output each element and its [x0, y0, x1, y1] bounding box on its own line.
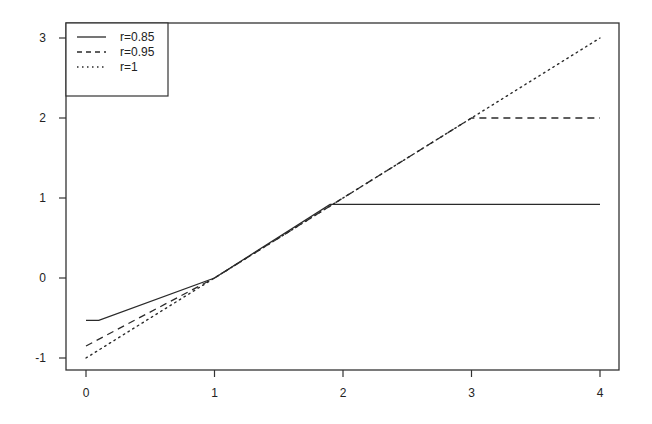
x-tick-label: 2 [340, 386, 347, 400]
x-axis: 01234 [83, 370, 604, 400]
series-r=0.85 [86, 204, 600, 320]
y-axis: -10123 [35, 31, 66, 365]
y-tick-label: 0 [39, 271, 46, 285]
legend-label: r=0.85 [120, 30, 155, 44]
x-tick-label: 1 [211, 386, 218, 400]
x-tick-label: 3 [468, 386, 475, 400]
series-r=0.95 [86, 118, 600, 346]
legend: r=0.85r=0.95r=1 [66, 23, 168, 96]
x-tick-label: 4 [597, 386, 604, 400]
legend-label: r=1 [120, 60, 138, 74]
y-tick-label: 2 [39, 111, 46, 125]
y-tick-label: 3 [39, 31, 46, 45]
y-tick-label: 1 [39, 191, 46, 205]
y-tick-label: -1 [35, 351, 46, 365]
line-chart: 01234 -10123 r=0.85r=0.95r=1 [0, 0, 652, 424]
x-tick-label: 0 [83, 386, 90, 400]
legend-label: r=0.95 [120, 45, 155, 59]
